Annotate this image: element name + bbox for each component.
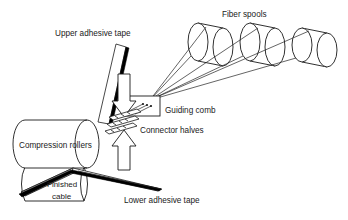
fiber-line-spool1-b bbox=[150, 27, 206, 100]
label-upper-adhesive-tape: Upper adhesive tape bbox=[55, 29, 131, 38]
label-lower-adhesive-tape: Lower adhesive tape bbox=[124, 196, 200, 205]
comb-tooth-dot-1 bbox=[142, 103, 144, 105]
label-connector-halves: Connector halves bbox=[140, 126, 204, 135]
lower-adhesive-tape-guide bbox=[78, 171, 161, 189]
diagram-canvas: Fiber spools Upper adhesive tape Guiding… bbox=[0, 0, 348, 220]
fiber-line-spool2-a bbox=[150, 56, 243, 100]
label-finished-cable-line1: Finished bbox=[47, 180, 77, 189]
comb-tooth-dot-3 bbox=[150, 105, 152, 107]
fiber-spool-2-far-end bbox=[265, 28, 285, 66]
fiber-spool-3-near-end bbox=[292, 28, 312, 62]
fiber-cable-assembly-diagram: Fiber spools Upper adhesive tape Guiding… bbox=[0, 0, 348, 220]
label-finished-cable-line2: cable bbox=[52, 192, 72, 201]
fiber-spool-3-far-end bbox=[317, 33, 337, 67]
press-arrow-up bbox=[112, 130, 136, 170]
label-guiding-comb: Guiding comb bbox=[165, 106, 216, 115]
fiber-spools-group bbox=[188, 23, 337, 67]
press-arrow-up-shape bbox=[112, 130, 136, 170]
fiber-line-spool1-a bbox=[150, 56, 191, 100]
fiber-spool-3 bbox=[292, 28, 337, 67]
label-compression-rollers: Compression rollers bbox=[19, 141, 92, 150]
comb-tooth-dot-2 bbox=[146, 104, 148, 106]
label-fiber-spools: Fiber spools bbox=[222, 10, 267, 19]
